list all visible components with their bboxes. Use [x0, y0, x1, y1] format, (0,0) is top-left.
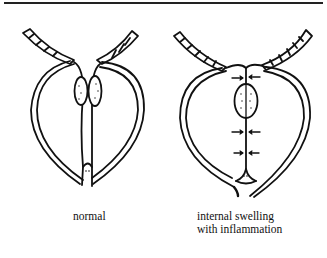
- bottom-opening: [236, 181, 256, 184]
- bottom-dots: [85, 170, 90, 172]
- gland-right: [89, 76, 102, 106]
- bottom-split: [236, 169, 256, 181]
- left-wall-inner: [186, 71, 232, 178]
- caption-inflamed-line-1: internal swelling: [197, 210, 282, 223]
- bottom-opening: [82, 164, 92, 187]
- caption-normal: normal: [73, 210, 106, 223]
- gland-left: [75, 77, 88, 105]
- hatched-band-left-icon: [23, 29, 74, 64]
- caption-inflamed: internal swelling with inflammation: [197, 210, 282, 236]
- inflamed-diagram: [174, 30, 312, 197]
- normal-diagram: [23, 29, 144, 186]
- bottom-left-tip: [234, 187, 238, 196]
- bottom-dots: [243, 175, 248, 177]
- caption-inflamed-line-2: with inflammation: [197, 223, 282, 236]
- hatched-band-right-icon: [97, 31, 138, 64]
- hatched-band-left-icon: [174, 32, 226, 71]
- caption-normal-line-1: normal: [73, 210, 106, 223]
- hatched-band-right-icon: [262, 30, 312, 70]
